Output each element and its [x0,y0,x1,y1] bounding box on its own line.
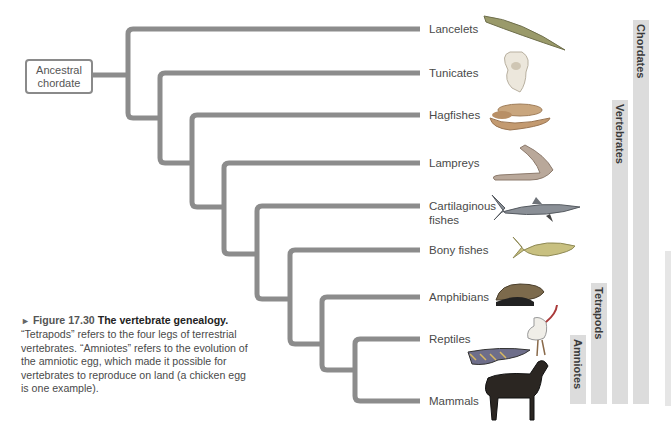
lamprey-icon [493,145,553,180]
taxon-name: Bony fishes [429,244,488,256]
figure-title: The vertebrate genealogy. [98,314,229,326]
taxon-name: Mammals [429,395,479,407]
taxon-name: Hagfishes [429,109,480,121]
taxon-label-bony-fishes: Bony fishes [429,243,488,257]
ancestor-label-line2: chordate [38,77,81,90]
clade-label: Chordates [635,24,647,78]
clade-label: Amniotes [572,339,584,389]
lancelet-icon [484,16,565,50]
figure-caption: ► Figure 17.30 The vertebrate genealogy.… [21,314,251,395]
cladogram-figure: Ancestral chordate Lancelets Tunicates H… [0,0,671,428]
clade-bar-vertebrates: Vertebrates [612,100,628,404]
branch-reptiles-mammals [355,339,420,401]
taxon-name: Lancelets [429,23,478,35]
ancestral-chordate-node: Ancestral chordate [25,59,93,94]
bony-fish-icon [513,237,575,258]
hagfish-icon [490,104,550,130]
shark-icon [492,195,580,222]
taxon-label-lampreys: Lampreys [429,156,480,170]
taxon-name: Reptiles [429,333,471,345]
clade-bar-amniotes: Amniotes [570,335,586,404]
branch-amphibians [322,297,420,370]
caption-body: “Tetrapods” refers to the four legs of t… [21,328,248,394]
taxon-name: Amphibians [429,291,489,303]
taxon-name: Lampreys [429,157,480,169]
clade-label: Vertebrates [614,104,626,164]
taxon-label-lancelets: Lancelets [429,22,478,36]
taxon-name-line2: fishes [429,213,496,227]
figure-number: Figure 17.30 [33,314,95,326]
taxon-label-tunicates: Tunicates [429,66,478,80]
taxon-label-hagfishes: Hagfishes [429,108,480,122]
clade-bar-tetrapods: Tetrapods [591,283,607,404]
taxon-name-line1: Cartilaginous [429,199,496,213]
clade-label: Tetrapods [593,287,605,339]
taxon-name: Tunicates [429,67,478,79]
clipped-bar-edge [665,251,671,406]
tunicate-icon [504,52,528,92]
taxon-label-cartilaginous-fishes: Cartilaginous fishes [429,199,496,227]
caption-arrow-icon: ► [21,316,30,326]
ancestor-label-line1: Ancestral [36,64,82,77]
branch-tunicates [160,73,420,163]
frog-icon [496,284,544,306]
clade-bar-chordates: Chordates [633,20,649,404]
taxon-label-amphibians: Amphibians [429,290,489,304]
bird-and-lizard-icon [468,305,557,365]
horse-icon [485,361,548,420]
taxon-label-mammals: Mammals [429,394,479,408]
taxon-label-reptiles: Reptiles [429,332,471,346]
